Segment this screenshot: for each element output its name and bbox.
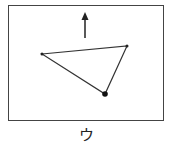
vertex-dot-right (126, 45, 129, 48)
frame-border (9, 6, 164, 121)
vertex-dot-left (41, 53, 44, 56)
vertex-dot-bottom (102, 91, 108, 97)
up-arrow-icon (82, 12, 89, 38)
figure-label: ウ (0, 123, 172, 144)
triangle (42, 46, 127, 94)
